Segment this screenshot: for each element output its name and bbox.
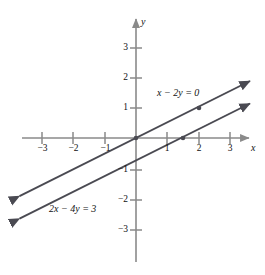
y-tick-label--2: −2: [111, 195, 128, 205]
coordinate-plane-svg: [0, 0, 265, 275]
point-origin-0-0: [134, 136, 139, 141]
x-tick-label-3: 3: [224, 144, 236, 154]
point-1.5-0: [181, 136, 186, 141]
y-tick-label-1: 1: [116, 103, 128, 113]
x-axis-label: x: [251, 143, 255, 153]
axes-group: [22, 19, 249, 262]
y-tick-label-3: 3: [116, 43, 128, 53]
x-tick-label--3: −3: [34, 144, 51, 154]
x-tick-label-2: 2: [193, 144, 205, 154]
line-graph-figure: −3 −2 −1 1 2 3 3 2 1 −1 −2 −3 x y x − 2y…: [0, 0, 265, 275]
label-lower-line-equation: 2x − 4y = 3: [49, 204, 96, 214]
x-tick-label--1: −1: [97, 144, 114, 154]
y-tick-label-2: 2: [116, 73, 128, 83]
y-tick-label--1: −1: [111, 165, 128, 175]
line-2x-minus-4y-equals-3: [20, 104, 251, 219]
label-upper-line-equation: x − 2y = 0: [157, 88, 199, 98]
x-tick-label-1: 1: [161, 144, 173, 154]
y-tick-label--3: −3: [111, 225, 128, 235]
x-tick-label--2: −2: [65, 144, 82, 154]
point-2-1: [197, 106, 202, 111]
y-axis-label: y: [141, 17, 145, 27]
